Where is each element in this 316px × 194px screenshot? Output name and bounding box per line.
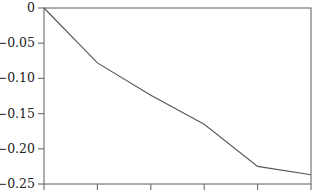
line-chart: 0−0.05−0.10−0.15−0.20−0.25 [0,0,316,194]
y-tick-label: 0 [27,0,35,15]
y-tick-label: −0.10 [0,70,35,85]
y-tick-label: −0.05 [0,35,35,50]
y-ticks [38,8,44,184]
x-ticks [44,184,311,190]
data-line [44,8,311,175]
y-tick-label: −0.25 [0,176,35,191]
y-tick-label: −0.15 [0,106,35,121]
y-tick-labels: 0−0.05−0.10−0.15−0.20−0.25 [0,0,35,191]
plot-frame [44,8,311,184]
y-tick-label: −0.20 [0,141,35,156]
